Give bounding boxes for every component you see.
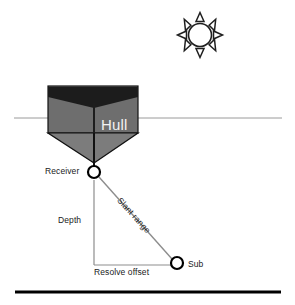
sub-label: Sub <box>188 260 203 269</box>
resolve-offset-label: Resolve offset <box>94 268 149 277</box>
diagram-graphics <box>0 0 295 305</box>
sun-icon <box>178 13 223 58</box>
hull-label: Hull <box>101 117 128 132</box>
receiver-node-icon <box>88 166 100 178</box>
sub-node-icon <box>171 257 183 269</box>
depth-label: Depth <box>58 216 81 225</box>
diagram-canvas: Hull Receiver Depth Slant range Resolve … <box>0 0 295 305</box>
receiver-label: Receiver <box>45 167 79 176</box>
